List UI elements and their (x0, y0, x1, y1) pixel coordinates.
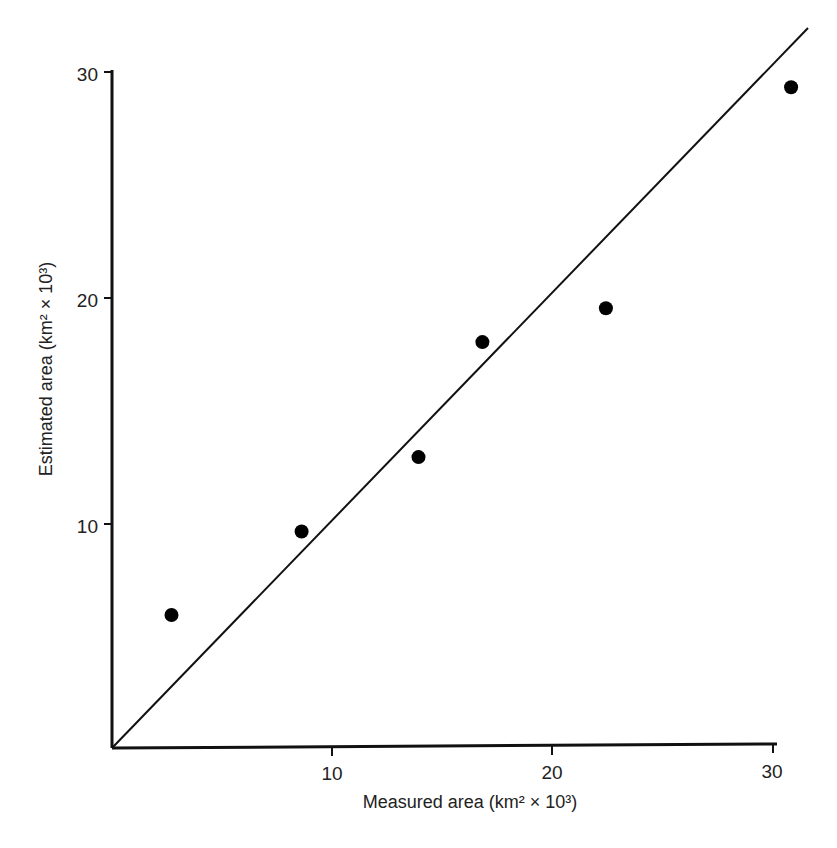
data-points (165, 80, 799, 622)
y-tick-label-20: 20 (77, 290, 98, 311)
y-tick-label-10: 10 (77, 516, 98, 537)
x-tick-label-20: 20 (541, 762, 562, 783)
data-point (295, 525, 309, 539)
data-point (165, 608, 179, 622)
x-axis-title: Measured area (km² × 10³) (363, 792, 578, 812)
x-ticks: 10 20 30 (321, 744, 782, 784)
y-ticks: 30 20 10 (77, 64, 112, 537)
x-tick-label-10: 10 (321, 763, 342, 784)
data-point (475, 335, 489, 349)
x-tick-label-30: 30 (761, 761, 782, 782)
y-axis-title: Estimated area (km² × 10³) (36, 262, 56, 477)
x-axis (112, 744, 777, 748)
y-tick-label-30: 30 (77, 64, 98, 85)
data-point (412, 450, 426, 464)
data-point (784, 80, 798, 94)
data-point (599, 301, 613, 315)
scatter-chart: 30 20 10 10 20 30 Measured area (km² × 1… (0, 0, 837, 848)
reference-line (113, 28, 808, 747)
